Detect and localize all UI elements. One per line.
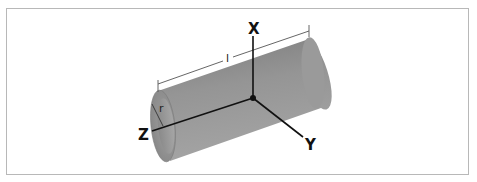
tube-diagram: l r X Y Z bbox=[0, 0, 477, 182]
origin-point bbox=[250, 95, 256, 101]
x-axis-label: X bbox=[248, 20, 260, 38]
z-axis-label: Z bbox=[138, 126, 149, 144]
y-axis-label: Y bbox=[304, 136, 317, 154]
radius-label: r bbox=[159, 102, 164, 115]
length-label: l bbox=[226, 52, 229, 65]
